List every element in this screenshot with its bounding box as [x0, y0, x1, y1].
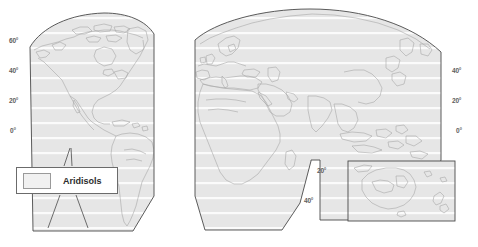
map-canvas	[0, 0, 478, 247]
oceania-panel-graticule-fill	[348, 161, 455, 221]
western-hemisphere-panel	[20, 0, 170, 247]
legend-swatch-aridisols	[23, 173, 51, 189]
legend-label-aridisols: Aridisols	[63, 176, 102, 186]
legend: Aridisols	[16, 167, 118, 194]
world-map-figure: 60° 40° 20° 0° 40° 20° 0° 20° 40° Aridis…	[0, 0, 478, 247]
oceania-inset-panel	[348, 161, 455, 221]
